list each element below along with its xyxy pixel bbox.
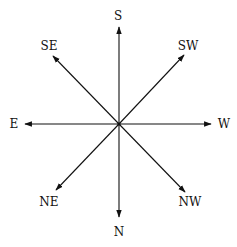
- arrow-sw: [119, 55, 184, 124]
- direction-label-e: E: [10, 117, 19, 131]
- compass-diagram: SSWWNWNNEESE: [0, 0, 237, 247]
- direction-label-sw: SW: [178, 39, 199, 53]
- direction-label-n: N: [114, 225, 125, 239]
- direction-label-s: S: [114, 9, 122, 23]
- direction-label-se: SE: [41, 39, 58, 53]
- direction-label-ne: NE: [39, 195, 58, 209]
- arrow-ne: [56, 124, 119, 190]
- compass-rose: SSWWNWNNEESE: [0, 0, 237, 247]
- direction-label-w: W: [218, 117, 231, 131]
- direction-label-nw: NW: [179, 195, 203, 209]
- center-dot: [117, 122, 120, 125]
- arrow-se: [53, 56, 119, 124]
- arrow-nw: [119, 124, 185, 192]
- arrow-group: [25, 27, 211, 217]
